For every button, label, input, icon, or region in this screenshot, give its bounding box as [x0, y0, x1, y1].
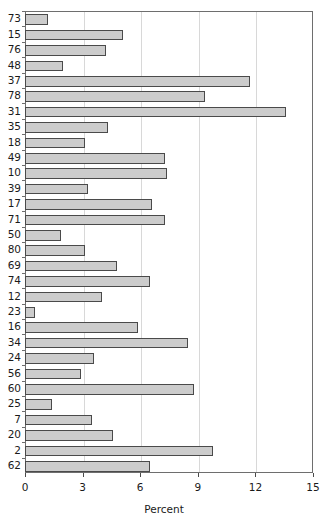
bar-row: [26, 151, 314, 166]
bar-row: [26, 89, 314, 104]
y-tick-label-15: 15: [0, 29, 21, 40]
y-tick-mark-80: [22, 242, 25, 243]
bar-chart: Percent 73157648377831351849103917715080…: [0, 0, 328, 527]
y-tick-mark-39: [22, 180, 25, 181]
x-tick-mark-15: [313, 473, 314, 477]
bar-12: [25, 292, 102, 303]
y-tick-label-20: 20: [0, 429, 21, 440]
bar-10: [25, 168, 167, 179]
y-tick-label-78: 78: [0, 90, 21, 101]
bar-row: [26, 428, 314, 443]
y-tick-mark-15: [22, 26, 25, 27]
bar-49: [25, 153, 165, 164]
x-tick-mark-9: [198, 473, 199, 477]
y-tick-label-48: 48: [0, 60, 21, 71]
y-tick-mark-71: [22, 211, 25, 212]
y-tick-label-56: 56: [0, 368, 21, 379]
bar-row: [26, 43, 314, 58]
bar-row: [26, 135, 314, 150]
bar-row: [26, 197, 314, 212]
y-tick-label-16: 16: [0, 321, 21, 332]
bar-73: [25, 14, 48, 25]
y-tick-label-18: 18: [0, 137, 21, 148]
x-tick-label-9: 9: [194, 481, 201, 493]
bar-row: [26, 320, 314, 335]
y-tick-mark-49: [22, 150, 25, 151]
y-tick-mark-18: [22, 134, 25, 135]
bar-row: [26, 243, 314, 258]
bar-row: [26, 27, 314, 42]
y-tick-mark-76: [22, 42, 25, 43]
bar-7: [25, 415, 92, 426]
bar-16: [25, 322, 138, 333]
bar-row: [26, 228, 314, 243]
bar-23: [25, 307, 35, 318]
y-tick-label-69: 69: [0, 260, 21, 271]
y-tick-mark-23: [22, 304, 25, 305]
bar-80: [25, 245, 85, 256]
bar-34: [25, 338, 188, 349]
y-tick-mark-48: [22, 57, 25, 58]
y-tick-mark-12: [22, 288, 25, 289]
bar-71: [25, 215, 165, 226]
bar-60: [25, 384, 194, 395]
y-tick-mark-73: [22, 11, 25, 12]
bar-18: [25, 138, 85, 149]
bar-row: [26, 120, 314, 135]
bar-row: [26, 274, 314, 289]
y-tick-mark-62: [22, 458, 25, 459]
y-tick-mark-20: [22, 427, 25, 428]
y-tick-mark-25: [22, 396, 25, 397]
y-tick-label-7: 7: [0, 414, 21, 425]
bar-15: [25, 30, 123, 41]
y-tick-label-35: 35: [0, 121, 21, 132]
bar-row: [26, 289, 314, 304]
y-tick-label-23: 23: [0, 306, 21, 317]
bar-56: [25, 369, 81, 380]
x-tick-label-12: 12: [249, 481, 262, 493]
bar-50: [25, 230, 61, 241]
bar-row: [26, 212, 314, 227]
y-tick-label-76: 76: [0, 44, 21, 55]
y-tick-mark-31: [22, 103, 25, 104]
y-tick-label-50: 50: [0, 229, 21, 240]
bar-row: [26, 351, 314, 366]
y-tick-mark-16: [22, 319, 25, 320]
y-tick-mark-50: [22, 227, 25, 228]
y-tick-label-49: 49: [0, 152, 21, 163]
y-tick-mark-37: [22, 73, 25, 74]
y-tick-label-62: 62: [0, 460, 21, 471]
bar-row: [26, 335, 314, 350]
x-tick-mark-3: [83, 473, 84, 477]
y-tick-label-80: 80: [0, 244, 21, 255]
x-tick-mark-0: [25, 473, 26, 477]
bar-row: [26, 12, 314, 27]
y-tick-label-37: 37: [0, 75, 21, 86]
x-tick-mark-12: [255, 473, 256, 477]
y-tick-mark-56: [22, 365, 25, 366]
y-tick-mark-24: [22, 350, 25, 351]
bar-row: [26, 397, 314, 412]
y-tick-label-2: 2: [0, 445, 21, 456]
y-tick-mark-17: [22, 196, 25, 197]
bar-row: [26, 305, 314, 320]
y-tick-label-60: 60: [0, 383, 21, 394]
bar-78: [25, 91, 205, 102]
x-tick-label-0: 0: [22, 481, 29, 493]
bar-20: [25, 430, 113, 441]
bar-74: [25, 276, 150, 287]
x-tick-label-15: 15: [306, 481, 319, 493]
bar-row: [26, 382, 314, 397]
y-tick-mark-35: [22, 119, 25, 120]
y-tick-label-71: 71: [0, 214, 21, 225]
bar-row: [26, 166, 314, 181]
y-tick-label-25: 25: [0, 398, 21, 409]
y-tick-mark-2: [22, 442, 25, 443]
bar-row: [26, 258, 314, 273]
y-tick-mark-60: [22, 381, 25, 382]
bar-17: [25, 199, 152, 210]
bar-row: [26, 412, 314, 427]
y-tick-label-17: 17: [0, 198, 21, 209]
y-tick-mark-78: [22, 88, 25, 89]
bar-row: [26, 104, 314, 119]
